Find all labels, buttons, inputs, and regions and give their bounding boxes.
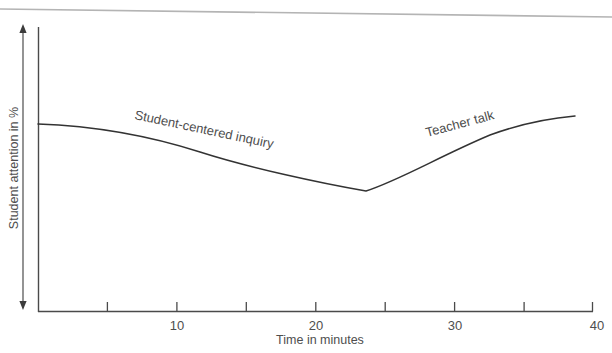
attention-curve [38, 116, 575, 191]
label-teacher-talk: Teacher talk [424, 107, 496, 140]
scan-artifact-top-rule [0, 9, 612, 17]
label-student-centered-inquiry: Student-centered inquiry [133, 107, 275, 151]
x-tick-label-20: 20 [309, 318, 323, 333]
attention-curve-figure: Student attention in % 10 20 30 40 Time … [0, 0, 612, 353]
x-tick-label-30: 30 [448, 318, 462, 333]
x-tick-label-10: 10 [170, 318, 184, 333]
x-axis-title: Time in minutes [276, 333, 364, 347]
x-axis-ticks [107, 302, 592, 312]
y-axis-title: Student attention in % [7, 107, 21, 229]
chart-canvas: Student attention in % 10 20 30 40 Time … [0, 0, 612, 353]
x-tick-label-40: 40 [590, 318, 604, 333]
